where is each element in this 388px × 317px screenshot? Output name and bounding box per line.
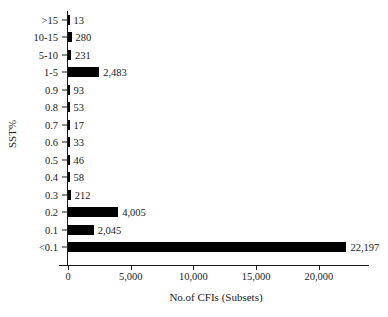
bar-row: >1513 bbox=[68, 11, 369, 29]
y-tick-label: 0.8 bbox=[45, 102, 58, 113]
y-tick-label: >15 bbox=[42, 14, 58, 25]
y-tick-label: 0.3 bbox=[45, 189, 58, 200]
bar-value-label: 231 bbox=[71, 49, 91, 60]
bar-row: 0.3212 bbox=[68, 186, 369, 204]
bar bbox=[68, 67, 99, 77]
y-axis-title: SST% bbox=[6, 104, 18, 164]
y-tick-mark bbox=[62, 37, 67, 38]
y-tick-mark bbox=[62, 212, 67, 213]
bar-chart: SST% >151310-152805-102311-52,4830.9930.… bbox=[0, 0, 388, 317]
x-tick-mark bbox=[256, 265, 257, 270]
y-tick-label: 0.9 bbox=[45, 84, 58, 95]
y-tick-mark bbox=[62, 124, 67, 125]
y-tick-label: <0.1 bbox=[39, 242, 58, 253]
bar bbox=[68, 225, 94, 235]
bar-value-label: 212 bbox=[71, 189, 91, 200]
bar-row: 5-10231 bbox=[68, 46, 369, 64]
bar-row: 0.546 bbox=[68, 151, 369, 169]
y-tick-label: 0.2 bbox=[45, 207, 58, 218]
y-tick-mark bbox=[62, 177, 67, 178]
bar-row: 0.633 bbox=[68, 134, 369, 152]
y-tick-mark bbox=[62, 89, 67, 90]
bar-value-label: 4,005 bbox=[118, 207, 146, 218]
y-tick-mark bbox=[62, 142, 67, 143]
y-tick-label: 1-5 bbox=[44, 67, 58, 78]
bar-value-label: 2,483 bbox=[99, 67, 127, 78]
bar-row: 0.993 bbox=[68, 81, 369, 99]
x-axis-title: No.of CFIs (Subsets) bbox=[0, 291, 388, 303]
bar-row: <0.122,197 bbox=[68, 239, 369, 257]
bar-value-label: 53 bbox=[70, 102, 85, 113]
bar-value-label: 13 bbox=[70, 14, 85, 25]
x-tick-mark bbox=[68, 265, 69, 270]
y-tick-mark bbox=[62, 107, 67, 108]
y-tick-label: 0.4 bbox=[45, 172, 58, 183]
x-tick-label: 15,000 bbox=[242, 271, 271, 282]
bar-value-label: 58 bbox=[70, 172, 85, 183]
x-axis-line bbox=[59, 265, 369, 266]
y-tick-label: 0.6 bbox=[45, 137, 58, 148]
bar-row: 0.458 bbox=[68, 169, 369, 187]
bar-row: 0.853 bbox=[68, 99, 369, 117]
y-tick-label: 5-10 bbox=[39, 49, 58, 60]
bar bbox=[68, 207, 118, 217]
y-tick-mark bbox=[62, 72, 67, 73]
bar-row: 0.12,045 bbox=[68, 221, 369, 239]
x-tick-mark bbox=[131, 265, 132, 270]
bar-value-label: 280 bbox=[72, 32, 92, 43]
bar-row: 1-52,483 bbox=[68, 64, 369, 82]
x-tick-mark bbox=[193, 265, 194, 270]
y-tick-mark bbox=[62, 194, 67, 195]
y-tick-mark bbox=[62, 54, 67, 55]
y-tick-label: 10-15 bbox=[34, 32, 59, 43]
y-tick-mark bbox=[62, 247, 67, 248]
bar-row: 0.717 bbox=[68, 116, 369, 134]
y-tick-mark bbox=[62, 229, 67, 230]
y-tick-label: 0.1 bbox=[45, 224, 58, 235]
x-tick-label: 20,000 bbox=[304, 271, 333, 282]
bar-value-label: 17 bbox=[70, 119, 85, 130]
y-tick-label: 0.5 bbox=[45, 154, 58, 165]
bar bbox=[68, 242, 346, 252]
x-tick-label: 0 bbox=[65, 271, 70, 282]
bar-value-label: 2,045 bbox=[94, 224, 122, 235]
y-tick-label: 0.7 bbox=[45, 119, 58, 130]
bar-value-label: 33 bbox=[70, 137, 85, 148]
y-tick-mark bbox=[62, 159, 67, 160]
plot-area: >151310-152805-102311-52,4830.9930.8530.… bbox=[68, 11, 369, 265]
bar-row: 0.24,005 bbox=[68, 204, 369, 222]
x-tick-mark bbox=[319, 265, 320, 270]
bar-value-label: 46 bbox=[70, 154, 85, 165]
bar-value-label: 22,197 bbox=[346, 242, 379, 253]
x-tick-label: 5,000 bbox=[119, 271, 143, 282]
y-tick-mark bbox=[62, 19, 67, 20]
bar-value-label: 93 bbox=[70, 84, 85, 95]
x-tick-label: 10,000 bbox=[179, 271, 208, 282]
bar-row: 10-15280 bbox=[68, 29, 369, 47]
